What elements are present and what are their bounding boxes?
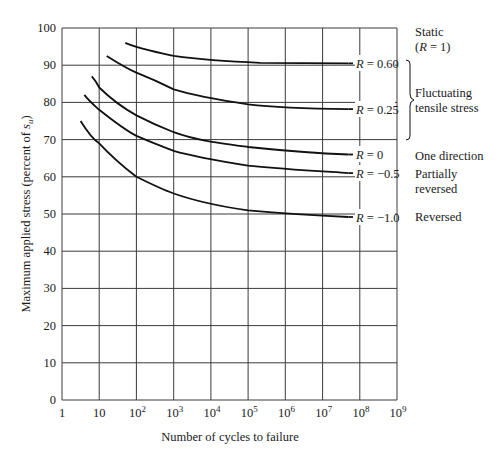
svg-text:50: 50 <box>44 207 57 221</box>
svg-text:106: 106 <box>278 404 296 420</box>
svg-text:40: 40 <box>44 244 57 258</box>
curve-label-rm10: R = −1.0 <box>355 211 400 225</box>
curves <box>81 43 349 217</box>
note-static-line1: Static <box>415 25 451 40</box>
svg-text:105: 105 <box>241 404 259 420</box>
note-static: Static (R = 1) <box>415 25 451 55</box>
curve-label-r025: R = 0.25 <box>355 103 399 117</box>
curve-r-0 <box>92 76 349 154</box>
svg-text:103: 103 <box>166 404 184 420</box>
svg-text:90: 90 <box>44 58 57 72</box>
svg-text:10: 10 <box>44 356 57 370</box>
grid <box>62 28 397 400</box>
svg-text:108: 108 <box>352 404 370 420</box>
svg-text:60: 60 <box>44 170 57 184</box>
svg-text:20: 20 <box>44 319 57 333</box>
svg-text:80: 80 <box>44 95 57 109</box>
note-one-direction: One direction <box>415 149 483 164</box>
x-axis-title: Number of cycles to failure <box>161 430 299 444</box>
curve-label-rm05: R = −0.5 <box>355 167 400 181</box>
svg-text:100: 100 <box>37 21 56 35</box>
svg-text:70: 70 <box>44 133 57 147</box>
note-fluctuating-line1: Fluctuating <box>415 86 479 101</box>
curve-r-neg1.0 <box>81 121 349 217</box>
fluctuating-bracket <box>406 60 414 140</box>
note-fluctuating: Fluctuating tensile stress <box>415 86 479 116</box>
svg-text:1: 1 <box>59 406 65 420</box>
x-tick-labels: 1 10 102 103 104 105 106 107 108 109 <box>59 404 407 420</box>
note-partial-line2: reversed <box>415 182 457 197</box>
curve-label-r060: R = 0.60 <box>355 57 399 71</box>
y-axis-title: Maximum applied stress (percent of su) <box>19 115 35 312</box>
curve-r-0.60 <box>125 43 348 64</box>
curve-label-r0: R = 0 <box>355 148 383 162</box>
note-partially-reversed: Partially reversed <box>415 167 457 197</box>
note-fluctuating-line2: tensile stress <box>415 101 479 116</box>
note-static-line2: (R = 1) <box>415 40 451 55</box>
svg-text:0: 0 <box>50 393 56 407</box>
y-tick-labels: 0 10 20 30 40 50 60 70 80 90 100 <box>37 21 56 407</box>
svg-text:102: 102 <box>129 404 146 420</box>
svg-text:104: 104 <box>204 404 222 420</box>
curve-leaders <box>349 63 353 217</box>
svg-text:30: 30 <box>44 281 57 295</box>
svg-text:10: 10 <box>93 406 106 420</box>
svg-text:109: 109 <box>390 404 408 420</box>
note-reversed: Reversed <box>415 210 462 225</box>
svg-text:107: 107 <box>315 404 333 420</box>
note-partial-line1: Partially <box>415 167 457 182</box>
